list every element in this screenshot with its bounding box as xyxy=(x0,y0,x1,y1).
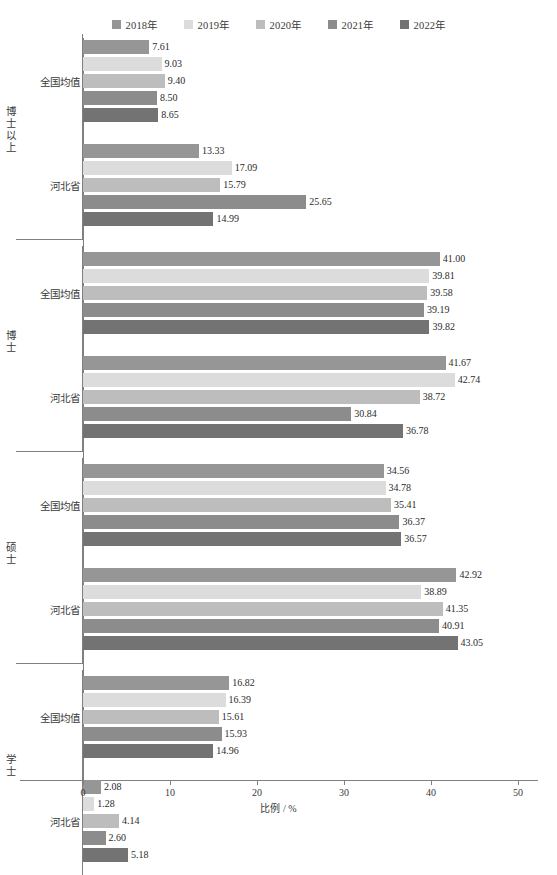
x-axis-tick xyxy=(170,780,171,785)
bar xyxy=(83,91,157,105)
bar xyxy=(83,303,424,317)
bar xyxy=(83,195,306,209)
x-axis-tick xyxy=(431,780,432,785)
category-separator xyxy=(16,239,83,240)
legend-item[interactable]: 2018年 xyxy=(112,17,158,32)
legend-label: 2019年 xyxy=(198,17,230,32)
x-axis-tick-label: 30 xyxy=(339,787,349,798)
bar xyxy=(83,693,226,707)
legend-item[interactable]: 2022年 xyxy=(400,17,446,32)
x-axis-tick xyxy=(257,780,258,785)
category-separator xyxy=(16,663,83,664)
bar-value-label: 36.57 xyxy=(404,532,427,546)
bar xyxy=(83,814,119,828)
group-bracket xyxy=(16,34,83,239)
bar-value-label: 42.74 xyxy=(458,373,481,387)
x-axis-tick xyxy=(344,780,345,785)
category-separator xyxy=(16,451,83,452)
legend-swatch-icon xyxy=(112,20,121,29)
bar-value-label: 40.91 xyxy=(442,619,465,633)
bar-value-label: 2.08 xyxy=(104,780,122,794)
bar xyxy=(83,498,391,512)
bar-value-label: 17.09 xyxy=(235,161,258,175)
bar xyxy=(83,57,162,71)
bar-value-label: 5.18 xyxy=(131,848,149,862)
group-bracket xyxy=(16,458,83,663)
bar xyxy=(83,144,199,158)
legend-label: 2021年 xyxy=(342,17,374,32)
bar-value-label: 7.61 xyxy=(152,40,170,54)
bar-value-label: 43.05 xyxy=(461,636,484,650)
legend-item[interactable]: 2020年 xyxy=(256,17,302,32)
bar-value-label: 16.82 xyxy=(232,676,255,690)
bar-value-label: 15.79 xyxy=(223,178,246,192)
bar-value-label: 15.61 xyxy=(222,710,245,724)
chart-legend: 2018年2019年2020年2021年2022年 xyxy=(0,14,557,34)
bar-value-label: 4.14 xyxy=(122,814,140,828)
bar xyxy=(83,108,158,122)
bar-value-label: 39.82 xyxy=(432,320,455,334)
x-axis-tick xyxy=(83,780,84,785)
bar-value-label: 39.58 xyxy=(430,286,453,300)
bar-value-label: 42.92 xyxy=(459,568,482,582)
bar-value-label: 9.40 xyxy=(168,74,186,88)
bar-value-label: 14.99 xyxy=(216,212,239,226)
group-bracket xyxy=(16,670,83,875)
legend-swatch-icon xyxy=(400,20,409,29)
x-axis-tick-label: 20 xyxy=(252,787,262,798)
bar xyxy=(83,424,403,438)
bar xyxy=(83,710,219,724)
bar-value-label: 14.96 xyxy=(216,744,239,758)
bar-value-label: 25.65 xyxy=(309,195,332,209)
bar-value-label: 38.72 xyxy=(423,390,446,404)
bar xyxy=(83,727,222,741)
bar xyxy=(83,831,106,845)
x-axis-title: 比例 / % xyxy=(0,800,557,815)
bar xyxy=(83,407,351,421)
bar-value-label: 34.56 xyxy=(387,464,410,478)
x-axis-tick-label: 50 xyxy=(513,787,523,798)
bar xyxy=(83,848,128,862)
legend-label: 2022年 xyxy=(414,17,446,32)
bar xyxy=(83,161,232,175)
bar xyxy=(83,356,446,370)
bar xyxy=(83,464,384,478)
bar xyxy=(83,269,429,283)
x-axis-tick-label: 40 xyxy=(426,787,436,798)
legend-label: 2018年 xyxy=(126,17,158,32)
bar xyxy=(83,619,439,633)
x-axis-tick-label: 10 xyxy=(165,787,175,798)
bar xyxy=(83,744,213,758)
bar-value-label: 13.33 xyxy=(202,144,225,158)
bar xyxy=(83,602,443,616)
bar-value-label: 30.84 xyxy=(354,407,377,421)
bar xyxy=(83,373,455,387)
bar xyxy=(83,568,456,582)
bar-value-label: 39.81 xyxy=(432,269,455,283)
x-axis-tick xyxy=(518,780,519,785)
bar xyxy=(83,252,440,266)
bar-value-label: 34.78 xyxy=(389,481,412,495)
bar xyxy=(83,320,429,334)
bar xyxy=(83,532,401,546)
bar-value-label: 39.19 xyxy=(427,303,450,317)
bar-value-label: 41.00 xyxy=(443,252,466,266)
bar-value-label: 38.89 xyxy=(424,585,447,599)
bar xyxy=(83,40,149,54)
bar xyxy=(83,212,213,226)
bar xyxy=(83,390,420,404)
legend-item[interactable]: 2021年 xyxy=(328,17,374,32)
legend-swatch-icon xyxy=(328,20,337,29)
legend-item[interactable]: 2019年 xyxy=(184,17,230,32)
bar xyxy=(83,585,421,599)
bar xyxy=(83,780,101,794)
bar-value-label: 36.37 xyxy=(402,515,425,529)
legend-swatch-icon xyxy=(256,20,265,29)
bar-value-label: 8.50 xyxy=(160,91,178,105)
bar xyxy=(83,481,386,495)
bar xyxy=(83,676,229,690)
bar xyxy=(83,74,165,88)
bar-value-label: 35.41 xyxy=(394,498,417,512)
group-bracket xyxy=(16,246,83,451)
